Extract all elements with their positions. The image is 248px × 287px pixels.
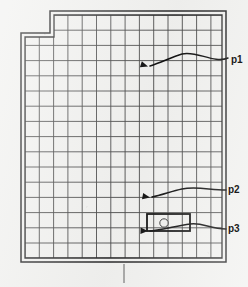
drawing-canvas: p1 p2 p3 bbox=[0, 0, 248, 287]
annotation-label-p2: p2 bbox=[228, 185, 240, 195]
callout-arrow-p1-head bbox=[140, 61, 148, 67]
callout-arrow-p2 bbox=[152, 188, 226, 197]
annotation-label-p3: p3 bbox=[228, 224, 240, 234]
floor-plan-svg bbox=[0, 0, 248, 287]
circle-marker[interactable] bbox=[160, 219, 168, 227]
grid-lines-group bbox=[0, 0, 248, 287]
annotation-label-p1: p1 bbox=[231, 55, 243, 65]
callout-arrow-p1 bbox=[150, 53, 228, 66]
callout-arrow-p2-head bbox=[142, 193, 150, 199]
